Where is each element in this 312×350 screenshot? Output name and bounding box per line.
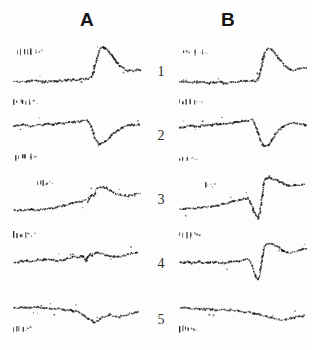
row-label-5: 5 — [152, 312, 170, 328]
artifact-mark-b1-upper — [182, 45, 208, 59]
row-label-1: 1 — [152, 64, 170, 80]
artifact-mark-a1-lower — [12, 95, 38, 109]
figure-panel: A B 1 2 3 4 5 — [0, 0, 312, 350]
trace-b5 — [178, 288, 312, 350]
artifact-mark-b5-lower — [178, 322, 204, 336]
row-label-3: 3 — [152, 192, 170, 208]
artifact-mark-b3-spike — [204, 178, 230, 192]
row-label-4: 4 — [152, 256, 170, 272]
artifact-mark-b2-lower — [178, 152, 204, 166]
trace-a5 — [12, 288, 146, 350]
trace-a3 — [12, 168, 146, 232]
row-label-2: 2 — [152, 128, 170, 144]
artifact-mark-b4-upper — [178, 228, 204, 242]
trace-b3 — [178, 168, 312, 232]
artifact-mark-b1-lower — [178, 95, 204, 109]
column-header-a: A — [80, 9, 94, 31]
artifact-mark-a4-upper — [12, 228, 38, 242]
artifact-mark-a3-spikes — [36, 176, 62, 190]
artifact-mark-a2-lower — [14, 150, 40, 164]
column-header-b: B — [221, 9, 235, 31]
artifact-mark-a5-lower — [12, 322, 38, 336]
artifact-mark-a1-upper — [16, 45, 42, 59]
